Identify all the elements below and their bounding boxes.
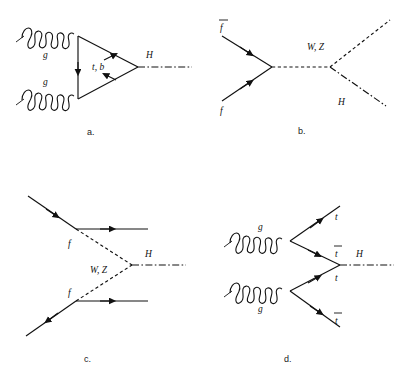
caption-c: c.: [84, 354, 91, 364]
diagram-d: g g t t t t H d.: [224, 206, 394, 364]
caption-a: a.: [87, 127, 95, 137]
label-boson-c: W, Z: [90, 265, 108, 275]
label-gluon-top-a: g: [43, 50, 48, 60]
gluon-top-a: [16, 28, 74, 49]
quark-loop-triangle-a: [78, 36, 138, 99]
label-f-bottom-c: f: [68, 288, 72, 298]
label-tbar-mid-d: t: [335, 249, 338, 259]
label-tbar-bottom-d: t: [335, 316, 338, 326]
label-higgs-b: H: [337, 97, 346, 107]
label-boson-b: W, Z: [307, 42, 325, 52]
label-quark-loop-a: t, b: [92, 62, 104, 72]
caption-d: d.: [284, 354, 292, 364]
caption-b: b.: [298, 126, 306, 136]
label-f-b: f: [220, 106, 224, 116]
label-gluon-bottom-a: g: [43, 77, 48, 87]
label-higgs-a: H: [145, 50, 154, 60]
diagram-c: f f W, Z H c.: [26, 196, 186, 364]
boson-outgoing-b: [330, 20, 390, 67]
label-higgs-c: H: [144, 249, 153, 259]
diagram-b: f f W, Z H b.: [219, 20, 390, 136]
label-gluon-bottom-d: g: [258, 304, 263, 314]
label-gluon-top-d: g: [258, 222, 263, 232]
label-higgs-d: H: [355, 249, 364, 259]
feynman-diagram-figure: g g t, b H a. f f W, Z H b.: [0, 0, 398, 379]
label-f-top-c: f: [68, 239, 72, 249]
label-t-top-d: t: [335, 212, 338, 222]
label-t-mid-d: t: [335, 273, 338, 283]
gluon-bottom-a: [16, 90, 74, 111]
label-fbar-b: f: [220, 23, 224, 33]
diagram-a-canvas: g g t, b H a. f f W, Z H b.: [0, 0, 398, 379]
boson-upper-c: [76, 229, 132, 265]
